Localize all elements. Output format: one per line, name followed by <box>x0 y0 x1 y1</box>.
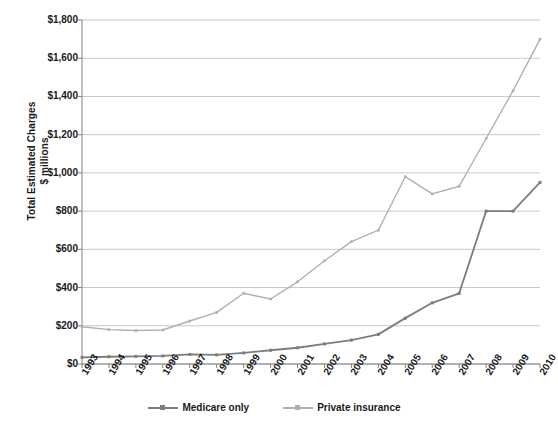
data-point <box>188 320 191 323</box>
data-series-layer <box>81 38 542 359</box>
data-point <box>135 329 138 332</box>
data-point <box>512 89 515 92</box>
data-point <box>404 317 407 320</box>
data-point <box>81 325 84 328</box>
gridlines <box>82 20 540 364</box>
data-point <box>296 281 299 284</box>
data-point <box>404 175 407 178</box>
data-point <box>188 353 191 356</box>
data-point <box>215 353 218 356</box>
data-point <box>242 351 245 354</box>
data-point <box>485 137 488 140</box>
data-point <box>377 229 380 232</box>
data-point <box>161 354 164 357</box>
data-point <box>485 210 488 213</box>
data-point <box>269 349 272 352</box>
data-point <box>512 210 515 213</box>
data-point <box>458 292 461 295</box>
data-point <box>134 355 137 358</box>
series-line-private-insurance <box>82 39 540 330</box>
data-point <box>350 240 353 243</box>
data-point <box>323 260 326 263</box>
legend-swatch-icon <box>148 403 178 413</box>
data-point <box>108 328 111 331</box>
data-point <box>215 311 218 314</box>
legend-entry[interactable]: Medicare only <box>148 402 249 413</box>
data-point <box>350 339 353 342</box>
data-point <box>431 301 434 304</box>
axis-lines <box>78 20 540 368</box>
data-point <box>539 181 542 184</box>
data-point <box>296 346 299 349</box>
data-point <box>162 329 165 332</box>
data-point <box>539 38 542 41</box>
data-point <box>458 185 461 188</box>
legend-label: Medicare only <box>182 402 249 413</box>
data-point <box>81 356 84 359</box>
series-line-medicare-only <box>82 182 540 357</box>
data-point <box>431 193 434 196</box>
legend-entry[interactable]: Private insurance <box>283 402 400 413</box>
data-point <box>377 333 380 336</box>
data-point <box>242 292 245 295</box>
data-point <box>323 342 326 345</box>
legend-label: Private insurance <box>317 402 400 413</box>
data-point <box>107 355 110 358</box>
data-point <box>269 298 272 301</box>
chart-legend: Medicare onlyPrivate insurance <box>0 402 549 413</box>
legend-swatch-icon <box>283 403 313 413</box>
